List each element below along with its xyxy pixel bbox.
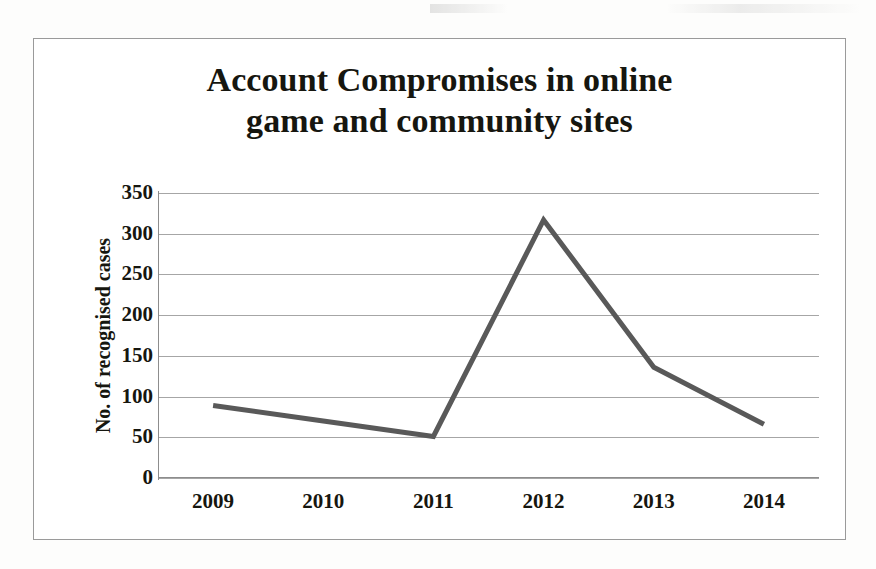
y-axis-tick-label: 300	[83, 223, 153, 244]
chart-title: Account Compromises in online game and c…	[34, 59, 845, 141]
chart-title-line-2: game and community sites	[34, 100, 845, 141]
y-axis-tick-label: 200	[83, 304, 153, 325]
y-axis-tick-label: 250	[83, 263, 153, 284]
y-axis-tick-label: 150	[83, 345, 153, 366]
scan-artifact	[430, 4, 860, 13]
x-axis-tick-label: 2014	[709, 486, 819, 516]
x-axis-tick-label: 2013	[599, 486, 709, 516]
x-axis-labels: 200920102011201220132014	[158, 486, 819, 516]
y-axis-tick-label: 350	[83, 182, 153, 203]
chart-title-line-1: Account Compromises in online	[34, 59, 845, 100]
gridline	[158, 478, 819, 479]
data-series-line	[158, 193, 819, 478]
y-axis-tick-label: 0	[83, 467, 153, 488]
x-axis-tick-label: 2012	[489, 486, 599, 516]
chart-figure-frame: Account Compromises in online game and c…	[33, 38, 846, 540]
x-axis-tick-label: 2010	[268, 486, 378, 516]
plot-area: 050100150200250300350	[158, 193, 819, 478]
x-axis-tick-label: 2009	[158, 486, 268, 516]
x-axis-tick-label: 2011	[378, 486, 488, 516]
scanned-page: Account Compromises in online game and c…	[0, 0, 876, 569]
y-axis-tick-label: 100	[83, 386, 153, 407]
y-axis-tick-label: 50	[83, 426, 153, 447]
